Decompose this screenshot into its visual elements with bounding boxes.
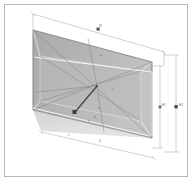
annotation-lower-mid: h (94, 116, 96, 119)
dimension-label-depth: D (99, 140, 101, 143)
vector-end-marker (73, 110, 77, 114)
dim-h1-label-mark (159, 106, 162, 109)
dim-depth-tick-right (152, 156, 156, 160)
dimension-label-width: W (99, 25, 102, 28)
perspective-box-drawing (0, 0, 193, 182)
drawing-page: W D H1 H2 a r b h c v (0, 0, 193, 182)
dimension-label-height-inner: H1 (162, 104, 166, 107)
annotation-lower-left: b (98, 107, 100, 110)
annotation-floor-left: c (68, 134, 70, 137)
annotation-top-face: a (100, 54, 102, 57)
dim-h2-label-mark (174, 105, 177, 108)
annotation-center: r (112, 88, 113, 91)
annotation-vector: v (88, 120, 90, 123)
dimension-height-outer (164, 55, 179, 152)
dimension-label-height-outer: H2 (179, 104, 183, 107)
